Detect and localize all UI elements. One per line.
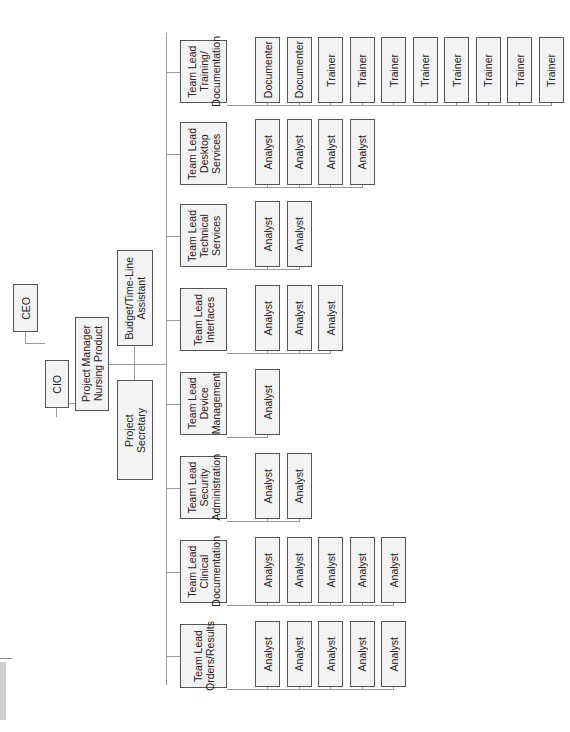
connector [166,404,180,405]
connector [166,488,180,489]
connector [134,346,135,380]
connector [166,236,180,237]
team-member-label: Analyst [293,135,305,169]
team-bus-connector [227,105,552,106]
team-bus-connector [227,437,268,438]
team-lead-label: Team Lead Security Administration [186,454,222,521]
team-member-label: Analyst [293,469,305,503]
team-member-box: Trainer [381,37,406,103]
team-bus-connector [227,353,331,354]
team-member-label: Analyst [356,135,368,169]
connector [109,364,166,365]
team-bus-connector [227,605,394,606]
team-member-label: Analyst [325,301,337,335]
budget-assistant-label: Budget/Time-Line Assistant [123,257,147,340]
team-member-box: Analyst [318,621,343,687]
connector [69,403,75,404]
connector [25,343,45,344]
team-member-label: Analyst [388,637,400,671]
team-member-box: Trainer [350,37,375,103]
team-member-label: Analyst [262,385,274,419]
connector [166,656,180,657]
team-lead-box: Team Lead Desktop Services [180,122,227,185]
team-member-box: Analyst [255,119,280,185]
team-member-box: Trainer [444,37,469,103]
team-member-label: Trainer [325,54,337,87]
connector [166,572,180,573]
team-member-box: Analyst [287,119,312,185]
figure-label-tab [0,662,6,720]
team-member-label: Trainer [514,54,526,87]
team-member-box: Trainer [476,37,501,103]
team-member-box: Documenter [287,37,312,103]
team-member-label: Trainer [482,54,494,87]
team-lead-box: Team Lead Orders/Results [180,624,227,688]
team-member-label: Analyst [356,553,368,587]
team-lead-box: Team Lead Security Administration [180,456,227,519]
project-secretary-box: Project Secretary [117,380,153,480]
team-member-box: Analyst [350,119,375,185]
team-member-box: Analyst [318,285,343,351]
team-member-label: Analyst [262,637,274,671]
team-member-label: Analyst [356,637,368,671]
team-trunk [166,33,167,685]
team-member-label: Analyst [325,637,337,671]
team-member-box: Analyst [255,537,280,603]
team-member-label: Trainer [419,54,431,87]
team-lead-label: Team Lead Orders/Results [192,621,216,691]
team-member-label: Analyst [262,469,274,503]
team-member-box: Analyst [287,453,312,519]
team-member-box: Analyst [255,285,280,351]
team-member-box: Analyst [350,537,375,603]
ceo-label: CEO [20,297,32,320]
team-lead-box: Team Lead Clinical Documentation [180,540,227,603]
team-member-box: Analyst [287,285,312,351]
team-lead-box: Team Lead Interfaces [180,288,227,351]
team-lead-label: Team Lead Training/ Documentation [186,36,222,107]
budget-assistant-box: Budget/Time-Line Assistant [117,250,153,346]
team-member-box: Analyst [287,621,312,687]
team-member-box: Analyst [255,621,280,687]
team-member-box: Analyst [287,201,312,267]
team-member-box: Analyst [381,621,406,687]
cio-box: CIO [45,360,69,408]
connector [166,72,180,73]
team-member-label: Analyst [293,301,305,335]
team-bus-connector [227,269,300,270]
team-lead-label: Team Lead Technical Services [186,210,222,262]
team-member-box: Trainer [539,37,564,103]
team-member-box: Analyst [318,537,343,603]
team-member-label: Analyst [262,553,274,587]
team-member-label: Trainer [545,54,557,87]
team-member-label: Trainer [451,54,463,87]
team-bus-connector [227,187,363,188]
team-bus-connector [227,521,300,522]
connector [166,154,180,155]
cio-label: CIO [51,375,63,394]
team-member-label: Analyst [325,135,337,169]
connector [166,320,180,321]
team-member-label: Trainer [356,54,368,87]
team-member-label: Analyst [293,637,305,671]
team-member-box: Documenter [255,37,280,103]
team-member-box: Analyst [255,453,280,519]
team-member-box: Analyst [350,621,375,687]
team-member-label: Analyst [293,217,305,251]
team-lead-box: Team Lead Training/ Documentation [180,40,227,103]
team-lead-label: Team Lead Desktop Services [186,128,222,180]
team-member-box: Analyst [255,201,280,267]
project-secretary-label: Project Secretary [123,408,147,453]
team-member-box: Trainer [413,37,438,103]
team-member-box: Trainer [318,37,343,103]
team-member-label: Trainer [388,54,400,87]
team-lead-label: Team Lead Device Management [186,373,222,434]
team-member-label: Analyst [262,301,274,335]
team-member-label: Analyst [388,553,400,587]
project-manager-label: Project Manager Nursing Product [80,325,104,402]
team-member-box: Analyst [318,119,343,185]
team-member-label: Analyst [262,135,274,169]
team-lead-label: Team Lead Interfaces [192,294,216,346]
team-member-label: Analyst [293,553,305,587]
team-member-label: Documenter [293,41,305,98]
team-member-label: Analyst [325,553,337,587]
